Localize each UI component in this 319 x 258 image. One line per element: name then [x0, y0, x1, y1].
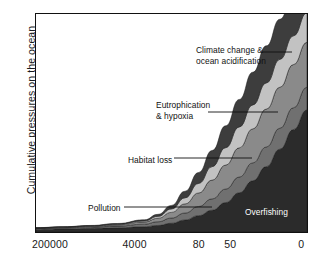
callout-label-eutrophication: Eutrophication & hypoxia: [156, 100, 210, 121]
callout-label-overfishing: Overfishing: [245, 207, 288, 218]
x-tick-label: 80: [193, 238, 205, 250]
callout-label-pollution: Pollution: [88, 203, 121, 214]
x-axis-tick-labels: 200000400080500: [35, 238, 308, 254]
x-tick-label: 0: [298, 238, 304, 250]
x-tick-label: 200000: [32, 238, 68, 250]
stacked-area-plot: [36, 14, 307, 232]
x-tick-label: 4000: [123, 238, 147, 250]
callout-label-habitat-loss: Habitat loss: [128, 155, 172, 166]
x-tick-label: 50: [224, 238, 236, 250]
callout-label-climate-change: Climate change & ocean acidification: [196, 45, 266, 66]
plot-area: [35, 13, 308, 233]
chart-figure: Cumulative pressures on the ocean 200000…: [0, 0, 319, 258]
